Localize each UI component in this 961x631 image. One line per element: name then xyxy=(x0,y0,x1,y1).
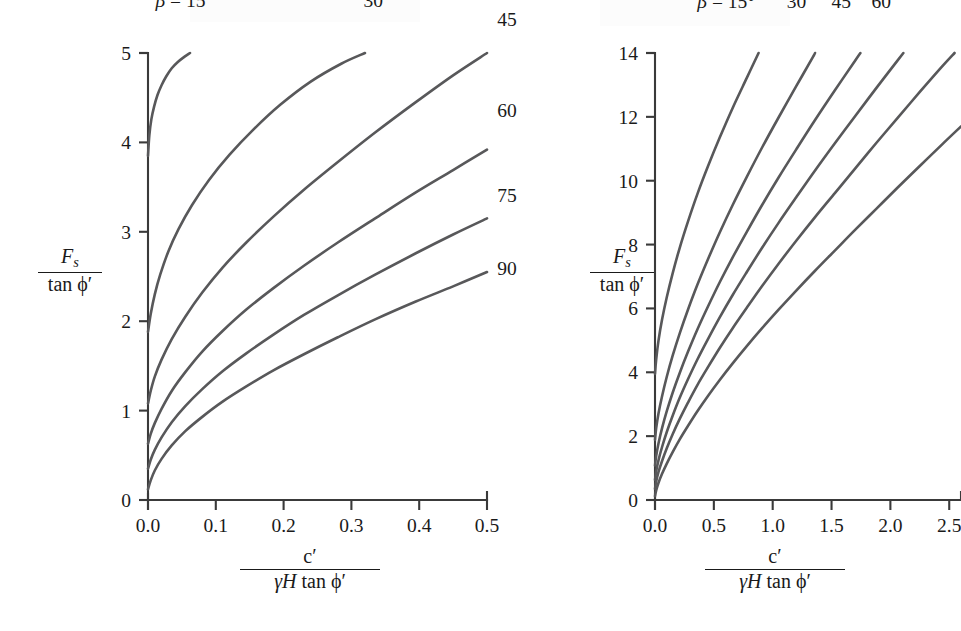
curve-group xyxy=(655,53,961,496)
y-axis-numerator: Fs xyxy=(590,246,654,272)
left-chart-panel: 0123450.00.10.20.30.40.5β = 15°304560759… xyxy=(0,0,560,631)
left-chart-y-axis-label: Fs tan ϕ′ xyxy=(38,246,102,295)
curve-label-beta-30: 30 xyxy=(787,0,807,12)
curve-beta-15 xyxy=(655,53,759,374)
y-tick-label: 10 xyxy=(619,171,639,192)
y-tick-label: 3 xyxy=(121,222,131,243)
curve-label-beta-45: 45 xyxy=(832,0,852,12)
curve-beta-30 xyxy=(148,53,365,332)
curve-label-beta-15: β = 15° xyxy=(154,0,213,11)
curve-label-beta-15: β = 15° xyxy=(696,0,755,12)
curve-label-beta-60: 60 xyxy=(497,100,517,121)
y-axis-numerator: Fs xyxy=(38,246,102,272)
left-chart-x-axis-label: c′ γH tan ϕ′ xyxy=(240,546,380,592)
curve-label-beta-60: 60 xyxy=(872,0,892,12)
y-tick-label: 2 xyxy=(628,426,638,447)
y-tick-label: 0 xyxy=(628,490,638,511)
x-tick-label: 0.0 xyxy=(136,515,160,536)
y-tick-label: 6 xyxy=(628,298,638,319)
slope-stability-chart-figure: 0123450.00.10.20.30.40.5β = 15°304560759… xyxy=(0,0,961,631)
curve-label-beta-45: 45 xyxy=(497,9,517,30)
y-tick-label: 12 xyxy=(619,107,639,128)
axis-lines xyxy=(148,53,487,500)
x-tick-label: 0.4 xyxy=(407,515,432,536)
x-tick-label: 0.2 xyxy=(271,515,295,536)
curve-label-beta-30: 30 xyxy=(364,0,384,11)
x-tick-label: 0.1 xyxy=(204,515,228,536)
x-axis-numerator: c′ xyxy=(240,546,380,569)
x-tick-label: 0.0 xyxy=(643,515,667,536)
y-tick-label: 4 xyxy=(121,132,131,153)
y-tick-label: 4 xyxy=(628,362,638,383)
x-axis-denominator: γH tan ϕ′ xyxy=(240,569,380,593)
y-axis-denominator: tan ϕ′ xyxy=(590,272,654,296)
x-axis-denominator: γH tan ϕ′ xyxy=(705,569,845,593)
curve-group xyxy=(148,53,487,489)
x-axis-numerator: c′ xyxy=(705,546,845,569)
y-tick-label: 14 xyxy=(619,43,639,64)
curve-beta-45 xyxy=(148,53,487,403)
curve-beta-15 xyxy=(148,53,190,156)
x-tick-label: 1.5 xyxy=(819,515,843,536)
y-tick-label: 5 xyxy=(121,43,131,64)
x-tick-label: 0.3 xyxy=(339,515,363,536)
y-axis-denominator: tan ϕ′ xyxy=(38,272,102,296)
x-tick-label: 0.5 xyxy=(702,515,726,536)
curve-beta-45 xyxy=(655,53,860,466)
x-tick-label: 2.0 xyxy=(878,515,902,536)
right-chart-y-axis-label: Fs tan ϕ′ xyxy=(590,246,654,295)
y-tick-label: 2 xyxy=(121,311,131,332)
y-tick-label: 1 xyxy=(121,401,131,422)
curve-beta-75 xyxy=(655,53,955,489)
x-tick-label: 0.5 xyxy=(475,515,499,536)
curve-label-beta-90: 90 xyxy=(497,258,517,279)
curve-beta-90 xyxy=(148,272,487,489)
right-chart-panel: 024681012140.00.51.01.52.02.5β = 15°3045… xyxy=(560,0,961,631)
right-chart-x-axis-label: c′ γH tan ϕ′ xyxy=(705,546,845,592)
right-chart-plot: 024681012140.00.51.01.52.02.5β = 15°3045… xyxy=(560,0,961,631)
x-tick-label: 2.5 xyxy=(937,515,961,536)
left-chart-plot: 0123450.00.10.20.30.40.5β = 15°304560759… xyxy=(0,0,560,631)
curve-label-beta-75: 75 xyxy=(497,185,517,206)
y-tick-label: 0 xyxy=(121,490,131,511)
x-tick-label: 1.0 xyxy=(761,515,785,536)
